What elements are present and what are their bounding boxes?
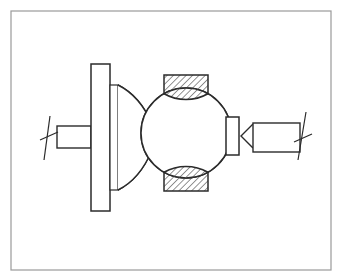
left-shaft [57,126,91,148]
upper-seat-hatch-fill [164,75,208,99]
right-collar [226,117,239,155]
right-shaft [253,123,300,152]
drawing-canvas [0,0,341,280]
lower-seat-assembly [164,167,208,191]
flange-hub [110,85,118,190]
technical-drawing [0,0,341,280]
lower-seat-hatch-fill [164,167,208,191]
upper-seat-assembly [164,75,208,99]
flange-plate [91,64,110,211]
